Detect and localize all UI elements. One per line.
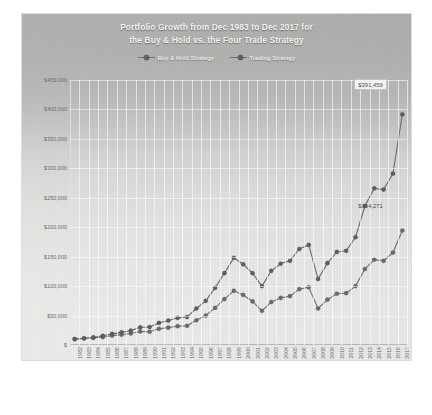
data-point-marker <box>147 325 151 329</box>
gridline-vertical <box>145 80 146 345</box>
y-axis-tick-label: $400,000 <box>44 106 67 112</box>
legend-label-buy-hold: Buy & Hold Strategy <box>158 55 214 61</box>
gridline-vertical <box>164 80 165 345</box>
data-point-marker <box>269 269 273 273</box>
x-axis-tick-label: 2010 <box>339 347 345 359</box>
data-point-marker <box>147 330 151 334</box>
data-point-marker <box>241 262 245 266</box>
data-point-marker <box>372 186 376 190</box>
data-point-marker <box>213 306 217 310</box>
gridline-vertical <box>89 80 90 345</box>
gridline-vertical <box>173 80 174 345</box>
gridline-vertical <box>154 80 155 345</box>
data-point-marker <box>307 243 311 247</box>
gridline-vertical <box>323 80 324 345</box>
data-point-marker <box>119 330 123 334</box>
chart-title: Portfolio Growth from Dec 1983 to Dec 20… <box>22 21 411 46</box>
data-point-marker <box>110 332 114 336</box>
gridline-vertical <box>379 80 380 345</box>
y-axis-tick-label: $300,000 <box>44 165 67 171</box>
chart-figure: Portfolio Growth from Dec 1983 to Dec 20… <box>22 14 411 360</box>
gridline-vertical <box>257 80 258 345</box>
x-axis-tick-label: 2002 <box>264 347 270 359</box>
x-axis-tick-label: 1993 <box>180 347 186 359</box>
data-point-marker <box>194 318 198 322</box>
x-axis-labels: 1982198319841985198619871988198919901991… <box>70 347 407 381</box>
data-point-marker <box>176 324 180 328</box>
gridline-vertical <box>388 80 389 345</box>
x-axis-tick-label: 2006 <box>301 347 307 359</box>
legend-item-trading[interactable]: Trading Strategy <box>230 54 296 61</box>
data-point-marker <box>129 328 133 332</box>
gridline-vertical <box>220 80 221 345</box>
x-axis-tick-label: 1988 <box>133 347 139 359</box>
gridline-vertical <box>407 80 408 345</box>
data-point-marker <box>288 294 292 298</box>
data-point-marker <box>194 306 198 310</box>
data-point-marker <box>279 262 283 266</box>
gridline-vertical <box>117 80 118 345</box>
x-axis-tick-label: 1986 <box>114 347 120 359</box>
x-axis-tick-label: 2008 <box>320 347 326 359</box>
legend-item-buy-hold[interactable]: Buy & Hold Strategy <box>138 54 214 61</box>
data-point-marker <box>269 300 273 304</box>
x-axis-tick-label: 1997 <box>217 347 223 359</box>
x-axis-tick-label: 2007 <box>311 347 317 359</box>
data-point-marker <box>250 299 254 303</box>
gridline-vertical <box>239 80 240 345</box>
data-point-marker <box>400 229 404 233</box>
gridline-vertical <box>351 80 352 345</box>
data-point-marker <box>335 292 339 296</box>
data-point-marker <box>157 327 161 331</box>
x-axis-tick-label: 1985 <box>105 347 111 359</box>
data-point-marker <box>185 324 189 328</box>
gridline-vertical <box>267 80 268 345</box>
gridline-vertical <box>210 80 211 345</box>
data-point-marker <box>232 289 236 293</box>
y-axis-tick-label: $200,000 <box>44 224 67 230</box>
gridline-vertical <box>341 80 342 345</box>
x-axis-tick-label: 2003 <box>273 347 279 359</box>
gridline-vertical <box>248 80 249 345</box>
y-axis-tick-label: $350,000 <box>44 136 67 142</box>
gridline-vertical <box>285 80 286 345</box>
data-point-marker <box>204 299 208 303</box>
y-axis-tick-label: $50,000 <box>47 313 67 319</box>
x-axis-tick-label: 2015 <box>386 347 392 359</box>
x-axis-tick-label: 2012 <box>358 347 364 359</box>
x-axis-tick-label: 1998 <box>226 347 232 359</box>
x-axis-tick-label: 1996 <box>208 347 214 359</box>
data-point-marker <box>372 258 376 262</box>
gridline-vertical <box>192 80 193 345</box>
gridline-vertical <box>313 80 314 345</box>
line-marker-icon <box>138 54 155 61</box>
data-point-marker <box>279 296 283 300</box>
data-point-marker <box>297 247 301 251</box>
data-point-marker <box>82 336 86 340</box>
data-point-marker <box>138 329 142 333</box>
data-point-marker <box>250 271 254 275</box>
x-axis-tick-label: 2011 <box>348 347 354 358</box>
data-point-marker <box>344 291 348 295</box>
gridline-vertical <box>107 80 108 345</box>
data-point-marker <box>363 267 367 271</box>
x-axis-tick-label: 2000 <box>245 347 251 359</box>
x-axis-tick-label: 1989 <box>142 347 148 359</box>
y-axis-tick-label: $100,000 <box>44 283 67 289</box>
data-point-marker <box>353 235 357 239</box>
gridline-vertical <box>126 80 127 345</box>
x-axis-tick-label: 2009 <box>329 347 335 359</box>
data-point-marker <box>316 306 320 310</box>
y-axis-labels: $450,000$400,000$350,000$300,000$250,000… <box>22 80 67 345</box>
legend-label-trading: Trading Strategy <box>250 55 296 61</box>
data-point-marker <box>382 259 386 263</box>
chart-title-line-2: the Buy & Hold vs. the Four Trade Strate… <box>22 34 411 47</box>
data-point-marker <box>166 318 170 322</box>
gridline-vertical <box>360 80 361 345</box>
x-axis-tick-label: 2001 <box>255 347 261 359</box>
data-point-marker <box>335 250 339 254</box>
data-point-marker <box>316 277 320 281</box>
gridline-vertical <box>229 80 230 345</box>
x-axis-tick-label: 1983 <box>86 347 92 359</box>
x-axis-tick-label: 2017 <box>404 347 410 359</box>
